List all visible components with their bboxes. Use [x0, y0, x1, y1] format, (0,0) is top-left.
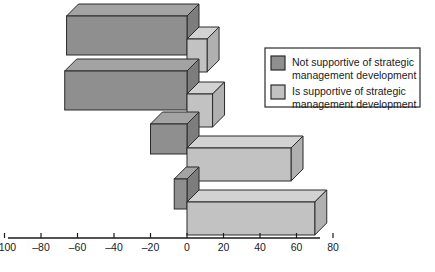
bars-layer — [65, 4, 327, 235]
chart-canvas: –100–80–60–40–20020406080 Not supportive… — [0, 0, 435, 272]
chart-legend: Not supportive of strategicmanagement de… — [265, 48, 420, 110]
legend-swatch-1 — [271, 56, 285, 70]
x-axis: –100–80–60–40–20020406080 — [0, 233, 339, 253]
legend-label-1-line2: management development — [292, 69, 416, 81]
legend-item-2: Is supportive of strategicmanagement dev… — [271, 85, 416, 110]
legend-item-1: Not supportive of strategicmanagement de… — [271, 56, 416, 81]
bar-top-face — [187, 190, 327, 202]
bar-top-face — [65, 59, 199, 71]
bar-chart: –100–80–60–40–20020406080 Not supportive… — [0, 0, 435, 272]
bar-top-face — [187, 136, 303, 148]
axis-tick-label-4: –20 — [142, 241, 160, 253]
axis-tick-label-1: –80 — [32, 241, 50, 253]
axis-tick-label-7: 40 — [254, 241, 266, 253]
axis-tick-label-6: 20 — [218, 241, 230, 253]
bar-front-face — [65, 71, 187, 110]
axis-tick-label-5: 0 — [184, 241, 190, 253]
axis-tick-label-9: 80 — [327, 241, 339, 253]
bar-dark-2 — [65, 59, 199, 110]
bar-top-face — [67, 4, 199, 16]
axis-tick-label-0: –100 — [0, 241, 16, 253]
axis-tick-label-8: 60 — [291, 241, 303, 253]
bar-front-face — [67, 16, 187, 55]
bar-front-face — [187, 148, 291, 181]
bar-light-3 — [187, 136, 303, 181]
legend-label-2-line2: management development — [292, 98, 416, 110]
bar-front-face — [187, 202, 315, 235]
bar-front-face — [151, 124, 188, 154]
legend-label-2-line1: Is supportive of strategic — [292, 85, 406, 97]
legend-swatch-2 — [271, 85, 285, 99]
axis-tick-label-3: –40 — [105, 241, 123, 253]
legend-label-1-line1: Not supportive of strategic — [292, 56, 414, 68]
bar-front-face — [174, 179, 187, 209]
bar-dark-1 — [67, 4, 199, 55]
axis-tick-label-2: –60 — [69, 241, 87, 253]
bar-light-4 — [187, 190, 327, 235]
